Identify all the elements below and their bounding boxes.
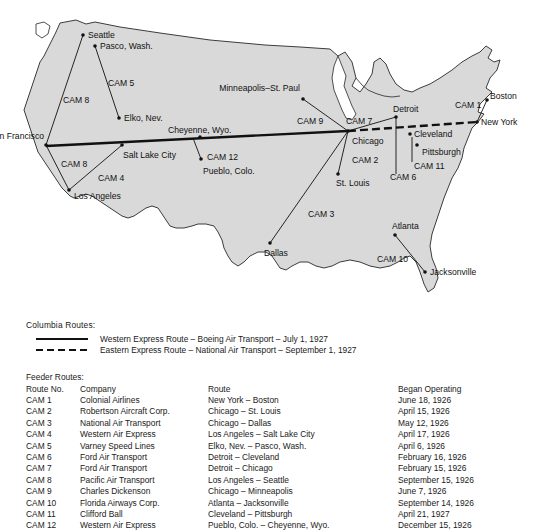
table-row: CAM 10Florida Airways Corp.Atlanta – Jac… <box>26 498 518 509</box>
city-label-jacksonville: Jacksonville <box>430 267 477 277</box>
table-row: CAM 12Western Air ExpressPueblo, Colo. –… <box>26 520 518 531</box>
cell-route: Detroit – Chicago <box>208 463 398 474</box>
city-label-pasco-wash: Pasco, Wash. <box>100 41 153 51</box>
table-row: CAM 5Varney Speed LinesElko, Nev. – Pasc… <box>26 441 518 452</box>
cam-label-cam-11: CAM 11 <box>414 161 445 171</box>
table-row: CAM 8Pacific Air TransportLos Angeles – … <box>26 475 518 486</box>
city-dot-elko-nev <box>117 116 121 120</box>
cell-route: Elko, Nev. – Pasco, Wash. <box>208 441 398 452</box>
city-label-elko-nev: Elko, Nev. <box>124 113 163 123</box>
table-row: CAM 3National Air TransportChicago – Dal… <box>26 418 518 429</box>
cam-label-cam-10: CAM 10 <box>377 254 408 264</box>
cell-began-operating: April 17, 1926 <box>398 429 518 440</box>
cell-route: Chicago – Minneapolis <box>208 486 398 497</box>
feeder-routes-section: Feeder Routes: Route No. Company Route B… <box>26 372 526 532</box>
table-row: CAM 6Ford Air TransportDetroit – Clevela… <box>26 452 518 463</box>
city-dot-detroit <box>394 115 398 119</box>
city-dot-chicago <box>346 129 350 133</box>
cell-route-no: CAM 2 <box>26 406 80 417</box>
cell-began-operating: April 21, 1927 <box>398 509 518 520</box>
cell-route: Detroit – Cleveland <box>208 452 398 463</box>
city-dot-los-angeles <box>67 188 71 192</box>
city-label-cheyenne-wyo: Cheyenne, Wyo. <box>168 125 231 135</box>
city-label-seattle: Seattle <box>88 30 115 40</box>
cam-label-cam-5: CAM 5 <box>108 78 134 88</box>
city-label-chicago: Chicago <box>352 136 384 146</box>
city-label-st-louis: St. Louis <box>336 178 369 188</box>
cam-label-cam-8: CAM 8 <box>61 159 87 169</box>
solid-line-swatch <box>36 334 88 344</box>
cell-began-operating: June 7, 1926 <box>398 486 518 497</box>
city-label-minneapolis-st-paul: Minneapolis–St. Paul <box>219 83 300 93</box>
cell-company: Charles Dickenson <box>80 486 208 497</box>
city-dot-jacksonville <box>423 270 427 274</box>
city-dot-cheyenne-wyo <box>198 135 202 139</box>
cell-route: Cleveland – Pittsburgh <box>208 509 398 520</box>
city-dot-minneapolis-st-paul <box>301 97 305 101</box>
city-dot-pasco-wash <box>93 44 97 48</box>
cell-began-operating: April 6, 1926 <box>398 441 518 452</box>
cell-route-no: CAM 9 <box>26 486 80 497</box>
legend-row-western: Western Express Route – Boeing Air Trans… <box>26 333 506 344</box>
city-dot-atlanta <box>393 233 397 237</box>
city-dot-salt-lake-city <box>120 143 124 147</box>
cam-label-cam-4: CAM 4 <box>98 173 124 183</box>
columbia-routes-legend: Columbia Routes: Western Express Route –… <box>26 320 506 355</box>
cam-label-cam-7: CAM 7 <box>346 116 372 126</box>
city-label-salt-lake-city: Salt Lake City <box>123 150 177 160</box>
cell-route-no: CAM 10 <box>26 498 80 509</box>
cell-route: New York – Boston <box>208 395 398 406</box>
cell-company: Western Air Express <box>80 520 208 531</box>
city-label-boston: Boston <box>490 91 517 101</box>
cam-label-cam-3: CAM 3 <box>308 209 334 219</box>
legend-text-western: Western Express Route – Boeing Air Trans… <box>100 334 328 344</box>
cell-began-operating: June 18, 1926 <box>398 395 518 406</box>
cell-route-no: CAM 8 <box>26 475 80 486</box>
cell-route: Chicago – Dallas <box>208 418 398 429</box>
city-dot-boston <box>485 98 489 102</box>
city-dot-pittsburgh <box>415 143 419 147</box>
legend-title: Columbia Routes: <box>26 320 506 330</box>
cam-label-cam-9: CAM 9 <box>297 116 323 126</box>
cell-route: Los Angeles – Seattle <box>208 475 398 486</box>
us-airmail-map: SeattlePasco, Wash.Elko, Nev.San Francis… <box>0 0 533 318</box>
cell-route-no: CAM 11 <box>26 509 80 520</box>
city-label-cleveland: Cleveland <box>414 129 452 139</box>
table-row: CAM 9Charles DickensonChicago – Minneapo… <box>26 486 518 497</box>
cell-company: Ford Air Transport <box>80 463 208 474</box>
cell-route-no: CAM 1 <box>26 395 80 406</box>
cell-company: Western Air Express <box>80 429 208 440</box>
cell-began-operating: April 15, 1926 <box>398 406 518 417</box>
city-dot-dallas <box>268 241 272 245</box>
cam-label-cam-1: CAM 1 <box>455 100 481 110</box>
feeder-routes-title: Feeder Routes: <box>26 372 526 382</box>
cell-began-operating: September 14, 1926 <box>398 498 518 509</box>
city-dot-pueblo-colo <box>199 157 203 161</box>
cell-company: Florida Airways Corp. <box>80 498 208 509</box>
cell-route-no: CAM 6 <box>26 452 80 463</box>
cell-route: Los Angeles – Salt Lake City <box>208 429 398 440</box>
city-label-atlanta: Atlanta <box>392 221 419 231</box>
city-label-san-francisco: San Francisco <box>0 131 44 141</box>
cam-label-cam-12: CAM 12 <box>207 152 238 162</box>
city-label-new-york: New York <box>481 117 518 127</box>
cam-label-cam-2: CAM 2 <box>352 155 378 165</box>
cell-company: Pacific Air Transport <box>80 475 208 486</box>
cell-began-operating: May 12, 1926 <box>398 418 518 429</box>
cell-began-operating: February 15, 1926 <box>398 463 518 474</box>
city-dot-san-francisco <box>44 143 48 147</box>
header-route: Route <box>208 384 398 395</box>
table-row: CAM 2Robertson Aircraft Corp.Chicago – S… <box>26 406 518 417</box>
cell-route-no: CAM 4 <box>26 429 80 440</box>
cell-route-no: CAM 12 <box>26 520 80 531</box>
header-began-operating: Began Operating <box>398 384 518 395</box>
cell-began-operating: December 15, 1926 <box>398 520 518 531</box>
city-label-pittsburgh: Pittsburgh <box>422 147 461 157</box>
cam-label-cam-6: CAM 6 <box>390 172 416 182</box>
table-header-row: Route No. Company Route Began Operating <box>26 384 518 395</box>
cell-company: National Air Transport <box>80 418 208 429</box>
header-route-no: Route No. <box>26 384 80 395</box>
cell-company: Colonial Airlines <box>80 395 208 406</box>
cell-route-no: CAM 5 <box>26 441 80 452</box>
legend-text-eastern: Eastern Express Route – National Air Tra… <box>100 345 357 355</box>
